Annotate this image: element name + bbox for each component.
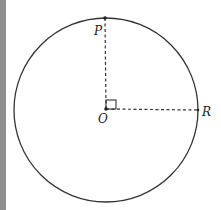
point-p — [103, 16, 107, 20]
right-angle-marker — [106, 100, 116, 109]
label-r: R — [201, 105, 211, 119]
point-o — [104, 107, 108, 111]
label-p: P — [93, 24, 103, 38]
radius-or — [106, 109, 198, 110]
point-r — [197, 109, 200, 112]
circle-diagram: P O R — [0, 0, 221, 210]
radius-op — [105, 19, 106, 109]
label-o: O — [98, 112, 108, 126]
